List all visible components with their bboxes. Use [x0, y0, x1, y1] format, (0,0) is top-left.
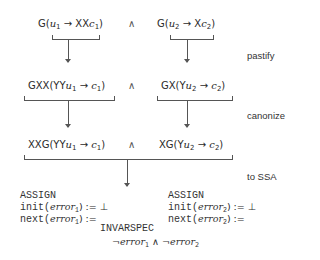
bracket-row1-right: [170, 35, 214, 40]
formula-row3-right: XG(Yu2 → c2): [159, 139, 223, 151]
invarspec-keyword: INVARSPEC: [100, 224, 154, 234]
smv-assign-left: ASSIGN init(error1) := ⊥ next(error1) :=: [20, 191, 108, 225]
bracket-row3-combined: [24, 155, 233, 160]
down-arrow-icon: [68, 101, 69, 127]
smv-assign-right: ASSIGN init(error2) := ⊥ next(error2) :=: [168, 191, 256, 225]
formula-row1-left: G(u1 → XXc1): [38, 18, 103, 30]
down-arrow-icon: [68, 40, 69, 62]
bracket-row2-right: [157, 96, 233, 101]
step-label-to-ssa: to SSA: [247, 171, 277, 182]
invarspec-formula: ¬error1 ∧ ¬error2: [112, 236, 199, 247]
formula-row3-left: XXG(YYu1 → c1): [28, 139, 105, 151]
conjunction-symbol: ∧: [128, 139, 135, 150]
formula-row2-right: GX(Yu2 → c2): [161, 80, 225, 92]
step-label-pastify: pastify: [247, 50, 274, 61]
bracket-row1-left: [52, 35, 100, 40]
init-statement: init(error2) := ⊥: [168, 201, 256, 213]
formula-row2-left: GXX(YYu1 → c1): [28, 80, 105, 92]
down-arrow-icon: [187, 40, 188, 62]
next-statement: next(error2) :=: [168, 213, 256, 225]
bracket-row2-left: [24, 96, 115, 101]
assign-keyword: ASSIGN: [20, 191, 108, 201]
init-statement: init(error1) := ⊥: [20, 201, 108, 213]
assign-keyword: ASSIGN: [168, 191, 256, 201]
conjunction-symbol: ∧: [128, 18, 135, 29]
down-arrow-icon: [127, 160, 128, 186]
next-statement: next(error1) :=: [20, 213, 108, 225]
formula-row1-right: G(u2 → Xc2): [157, 18, 215, 30]
conjunction-symbol: ∧: [128, 80, 135, 91]
step-label-canonize: canonize: [247, 110, 285, 121]
down-arrow-icon: [187, 101, 188, 127]
